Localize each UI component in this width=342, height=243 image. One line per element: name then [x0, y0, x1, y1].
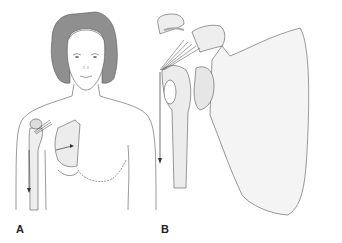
panel-label-a: A — [16, 223, 24, 235]
panel-label-b: B — [161, 223, 169, 235]
panel-a-torso-illustration: A — [0, 0, 165, 243]
shoulder-illustration — [150, 0, 342, 243]
panel-b-shoulder-closeup: B — [150, 0, 342, 243]
torso-illustration — [0, 0, 170, 243]
